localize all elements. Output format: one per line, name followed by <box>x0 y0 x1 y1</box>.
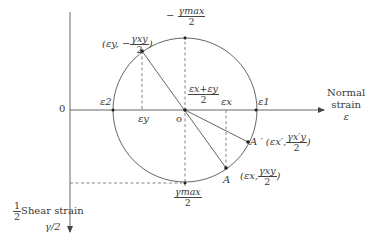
center-o-label: o <box>176 114 182 124</box>
radius-a-prime <box>185 110 248 142</box>
eps2-label: ε2 <box>100 97 112 107</box>
normal-strain-label: Normal strain ε <box>327 87 365 123</box>
point-a-label: A <box>223 175 230 185</box>
center-formula-label: εx+εy2 <box>188 84 219 105</box>
eps1-label: ε1 <box>258 97 270 107</box>
point-y-label: (εy, −γxy2) <box>102 34 153 55</box>
point-bottom <box>184 182 187 185</box>
shear-strain-symbol: γ/2 <box>45 222 61 232</box>
origin-label: 0 <box>59 104 65 114</box>
gamma-max-top-label: − γmax2 <box>166 6 205 27</box>
point-center <box>183 108 187 112</box>
gamma-max-bottom-label: γmax2 <box>174 187 202 208</box>
point-top <box>184 37 187 40</box>
point-a <box>224 166 228 170</box>
epsx-label: εx <box>221 97 232 107</box>
point-a-prime-label: A ′ (εx′,γx′y2) <box>250 132 311 153</box>
shear-strain-label: 12Shear strain <box>13 201 84 222</box>
epsy-label: εy <box>138 114 149 124</box>
point-eps1 <box>255 109 258 112</box>
point-a-coords: (εx,γxy2) <box>240 166 280 187</box>
point-eps2 <box>112 109 115 112</box>
